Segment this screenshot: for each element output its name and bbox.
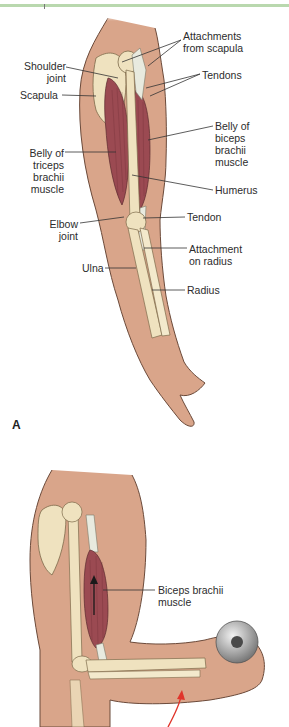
label-shoulder-joint: Shoulder joint [22,60,66,84]
label-attachments-from-scapula: Attachments from scapula [183,30,243,54]
panel-b-arm [20,460,264,727]
panel-a-arm [60,14,205,426]
label-elbow-joint: Elbow joint [40,218,78,242]
label-biceps-brachii-muscle: Biceps brachii muscle [158,584,223,608]
label-humerus: Humerus [215,184,258,196]
label-belly-of-biceps-brachii: Belly of biceps brachii muscle [215,120,249,168]
label-attachment-on-radius: Attachment on radius [189,243,242,267]
label-tendon: Tendon [187,211,221,223]
panel-a-letter: A [12,418,21,432]
label-scapula: Scapula [20,89,58,101]
arm-anatomy-illustration [0,0,289,727]
label-ulna: Ulna [82,262,104,274]
label-tendons: Tendons [202,69,242,81]
label-belly-of-triceps-brachii: Belly of triceps brachii muscle [18,147,64,195]
dumbbell-icon [216,621,258,663]
label-radius: Radius [187,284,220,296]
